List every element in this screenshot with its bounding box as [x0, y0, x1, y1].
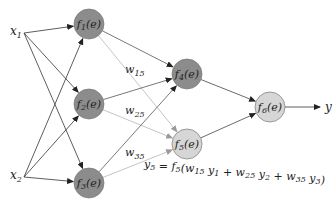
weight-label-w25: w25 [125, 104, 145, 119]
edge-x2-f1 [24, 39, 83, 177]
node-f2: f2(e) [74, 89, 104, 119]
node-label: f2(e) [76, 98, 101, 112]
node-f6: f6(e) [255, 92, 285, 122]
weight-label-w15: w15 [125, 63, 145, 78]
input-label-x1: x1 [10, 24, 22, 40]
node-label: f1(e) [76, 18, 101, 32]
node-label: f4(e) [174, 68, 199, 82]
node-f5: f5(e) [172, 129, 202, 159]
input-label-x2: x2 [10, 168, 22, 184]
edge-x1-f3 [24, 33, 83, 168]
node-f4: f4(e) [172, 59, 202, 89]
edge-x1-f2 [24, 33, 78, 92]
edge-f5-f6 [201, 114, 256, 138]
edge-x2-f3 [24, 177, 73, 182]
node-f3: f3(e) [74, 168, 104, 198]
node-label: f5(e) [174, 138, 199, 152]
weight-label-w35: w35 [125, 146, 145, 161]
node-f1: f1(e) [74, 9, 104, 39]
node-label: f3(e) [76, 177, 101, 191]
edge-f2-f4 [103, 79, 171, 100]
equation-y5: y5 = f5(w15 y1 + w25 y2 + w35 y3) [143, 158, 325, 187]
neural-network-diagram: f1(e)f2(e)f3(e)f4(e)f5(e)f6(e) x1x2w15w2… [0, 0, 336, 208]
edge-x1-f1 [24, 26, 73, 33]
node-label: f6(e) [257, 101, 282, 115]
output-label: y [324, 100, 332, 114]
edge-f1-f4 [102, 31, 172, 67]
edge-x2-f2 [24, 116, 78, 177]
edge-f4-f6 [201, 80, 255, 102]
